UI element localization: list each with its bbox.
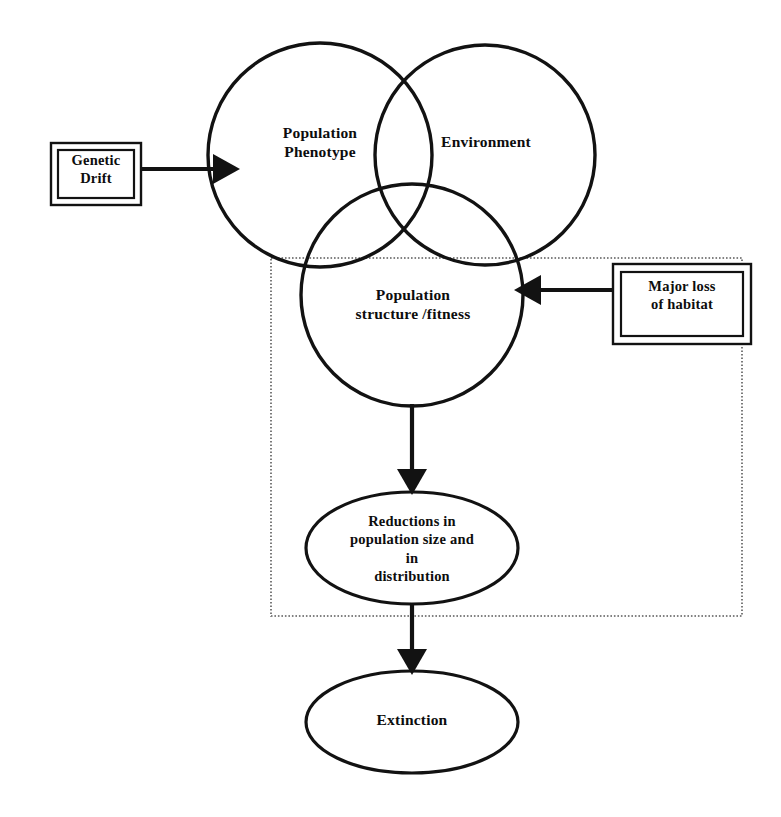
ellipse-extinction — [306, 671, 518, 773]
diagram-canvas-root: Population Phenotype Environment Populat… — [0, 0, 781, 817]
genetic-drift-box-inner — [58, 150, 134, 198]
ellipse-reductions — [306, 492, 518, 604]
diagram-vector-layer — [0, 0, 781, 817]
arrow-reductions-to-extinction — [397, 604, 427, 675]
arrow-structure-to-reductions — [397, 404, 427, 495]
major-loss-habitat-box-inner — [621, 272, 743, 336]
circle-environment — [375, 45, 595, 265]
arrow-habitat-to-structure — [514, 275, 613, 305]
arrow-genetic-drift-to-phenotype — [141, 154, 240, 184]
